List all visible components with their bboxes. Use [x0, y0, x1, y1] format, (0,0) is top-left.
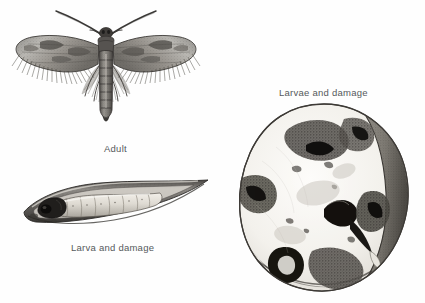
figure-larva-in-grain	[18, 176, 214, 238]
figure-larvae-damaged-fruit	[232, 101, 422, 297]
moth-left-forewing	[12, 35, 99, 84]
caption-larvae: Larvae and damage	[279, 87, 368, 98]
caption-adult: Adult	[104, 143, 127, 154]
illustration-plate: Adult	[0, 0, 425, 303]
caption-larva: Larva and damage	[71, 242, 154, 253]
figure-adult-moth	[6, 2, 206, 140]
moth-right-forewing	[113, 35, 200, 84]
moth-abdomen	[99, 51, 113, 122]
